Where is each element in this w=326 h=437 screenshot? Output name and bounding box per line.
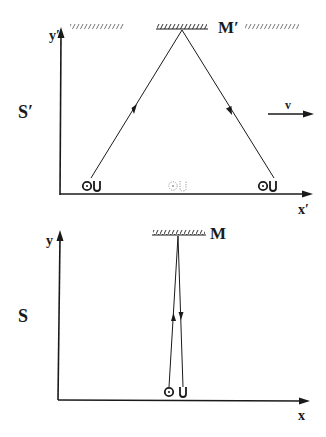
velocity-arrow <box>268 111 314 118</box>
arrow-right-icon <box>303 111 314 118</box>
light-ray-down <box>182 30 274 178</box>
mirror-ghost-left <box>70 24 124 29</box>
observer <box>165 387 186 397</box>
frame-label-s: S <box>18 306 28 326</box>
x-prime-label: x′ <box>298 202 309 217</box>
mirror-m-label: M <box>210 224 226 243</box>
mirror-m <box>152 230 206 235</box>
light-ray-down <box>178 236 184 387</box>
y-prime-label: y′ <box>49 28 60 43</box>
light-clock-diagram: y′ x′ S′ M′ v <box>0 0 326 437</box>
top-frame: y′ x′ S′ M′ v <box>18 18 314 217</box>
arrow-up-icon <box>57 230 64 241</box>
y-axis <box>57 230 64 400</box>
observer-right <box>259 181 276 191</box>
arrow-up-icon <box>132 104 138 114</box>
arrow-right-icon <box>302 191 313 198</box>
mirror-ghost-right <box>245 24 299 29</box>
arrow-down-icon <box>179 312 184 320</box>
x-label: x <box>298 408 305 423</box>
y-label: y <box>46 233 53 248</box>
light-ray-up <box>169 236 178 387</box>
mirror-m-prime <box>156 24 208 29</box>
light-ray-up <box>91 30 182 178</box>
y-prime-axis <box>58 27 65 195</box>
arrow-down-icon <box>226 106 232 115</box>
observer-left <box>83 181 100 191</box>
arrow-right-icon <box>299 398 310 405</box>
frame-label-s-prime: S′ <box>18 102 33 122</box>
observer-middle-ghost <box>169 181 186 191</box>
mirror-m-prime-label: M′ <box>218 18 239 37</box>
velocity-label: v <box>285 98 291 112</box>
arrow-up-icon <box>171 313 176 321</box>
x-axis <box>58 398 310 405</box>
bottom-frame: y x S M <box>18 224 310 423</box>
